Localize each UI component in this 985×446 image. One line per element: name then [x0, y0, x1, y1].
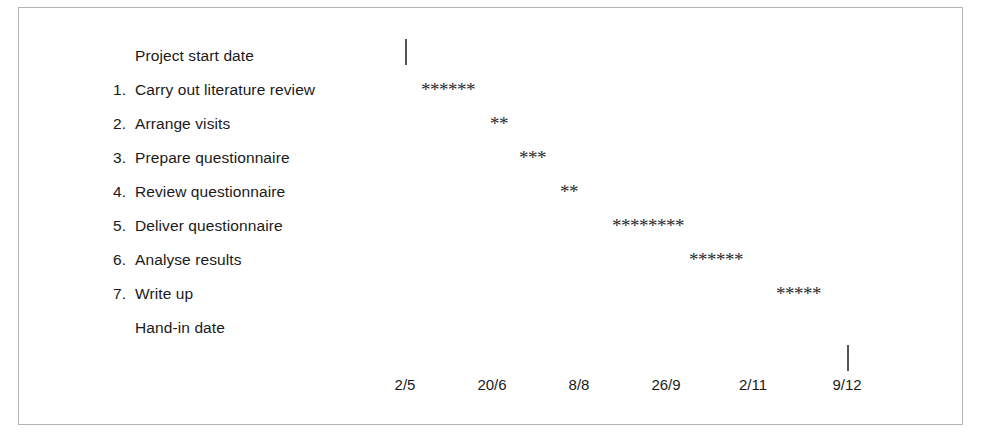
axis-tick-label-6: 9/12 — [832, 376, 861, 393]
row-number: 1. — [113, 73, 135, 107]
row-task-name: Hand-in date — [135, 319, 225, 336]
row-number: 4. — [113, 175, 135, 209]
row-task-name: Project start date — [135, 47, 254, 64]
axis-tick-label-4: 26/9 — [651, 376, 680, 393]
gantt-row-3: 3.Prepare questionnaire *** — [19, 141, 962, 175]
row-label: Project start date — [113, 39, 254, 73]
axis-tick-label-3: 8/8 — [569, 376, 590, 393]
row-task-name: Review questionnaire — [135, 183, 285, 200]
gantt-row-2: 2.Arrange visits ** — [19, 107, 962, 141]
row-label: 2.Arrange visits — [113, 107, 230, 141]
project-start-tick-icon — [405, 39, 407, 65]
gantt-row-4: 4.Review questionnaire ** — [19, 175, 962, 209]
axis-tick-label-5: 2/11 — [739, 376, 767, 393]
row-task-name: Prepare questionnaire — [135, 149, 290, 166]
gantt-bar-3: *** — [519, 141, 546, 175]
row-number: 3. — [113, 141, 135, 175]
gantt-chart-area: Project start date 1.Carry out literatur… — [19, 8, 962, 424]
row-number: 7. — [113, 277, 135, 311]
row-number: 5. — [113, 209, 135, 243]
row-number: 6. — [113, 243, 135, 277]
gantt-bar-4: ** — [560, 175, 578, 209]
row-label: Hand-in date — [113, 311, 225, 345]
row-label: 7.Write up — [113, 277, 193, 311]
gantt-row-7: 7.Write up ***** — [19, 277, 962, 311]
row-task-name: Carry out literature review — [135, 81, 315, 98]
row-label: 5.Deliver questionnaire — [113, 209, 283, 243]
gantt-chart-frame: Project start date 1.Carry out literatur… — [18, 7, 963, 425]
row-label: 3.Prepare questionnaire — [113, 141, 290, 175]
row-task-name: Write up — [135, 285, 193, 302]
row-label: 6.Analyse results — [113, 243, 242, 277]
gantt-row-hand-in: Hand-in date — [19, 311, 962, 345]
axis-tick-label-2: 20/6 — [477, 376, 506, 393]
axis-tick-label-1: 2/5 — [395, 376, 416, 393]
gantt-bar-7: ***** — [776, 277, 821, 311]
gantt-bar-6: ****** — [689, 243, 743, 277]
gantt-bar-5: ******** — [612, 209, 684, 243]
gantt-row-6: 6.Analyse results ****** — [19, 243, 962, 277]
axis-tick-labels: 2/5 20/6 8/8 26/9 2/11 9/12 — [19, 376, 962, 402]
row-label: 1.Carry out literature review — [113, 73, 315, 107]
row-task-name: Analyse results — [135, 251, 242, 268]
gantt-bar-2: ** — [490, 107, 508, 141]
gantt-row-5: 5.Deliver questionnaire ******** — [19, 209, 962, 243]
gantt-row-project-start: Project start date — [19, 39, 962, 73]
row-task-name: Arrange visits — [135, 115, 230, 132]
row-label: 4.Review questionnaire — [113, 175, 285, 209]
hand-in-date-tick-icon — [847, 345, 849, 371]
row-task-name: Deliver questionnaire — [135, 217, 283, 234]
gantt-row-1: 1.Carry out literature review ****** — [19, 73, 962, 107]
gantt-bar-1: ****** — [421, 73, 475, 107]
row-number: 2. — [113, 107, 135, 141]
